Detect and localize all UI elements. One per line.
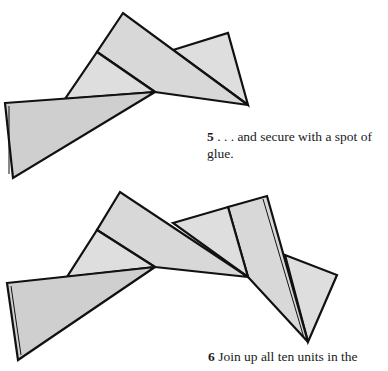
step-text: . . . and secure with a spot of glue. [207,129,372,161]
step-6-caption: 6 Join up all ten units in the [208,348,388,365]
step-5-caption: 5 . . . and secure with a spot of glue. [207,128,387,162]
step-6-figure [7,192,337,360]
origami-diagram [0,0,388,371]
step-number: 6 [208,349,215,364]
unit-triangle-left [7,267,155,360]
unit-triangle-left [5,92,155,178]
step-number: 5 [207,129,214,144]
step-text: Join up all ten units in the [215,349,358,364]
